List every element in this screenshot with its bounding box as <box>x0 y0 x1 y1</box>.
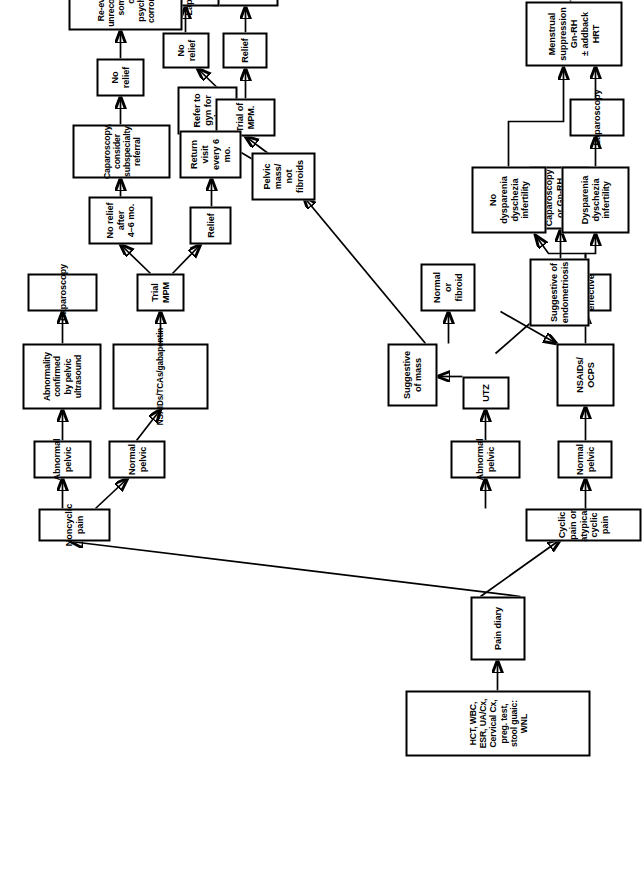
node-caparoscopy-subspecialty-referral: Caparoscopy, consider subspecialty refer… <box>72 124 170 178</box>
node-return-visit-nc: Return visit every 6 mo. <box>179 130 241 178</box>
node-no-relief-after-4-6-mo: No relief after 4–6 mo. <box>88 196 152 244</box>
node-labs: HCT, WBC, ESR, UA/Cx, Cervical Cx, preg.… <box>405 690 590 756</box>
node-trial-mpm-nc: Trial MPM <box>136 273 184 311</box>
node-menstrual-suppression: Menstrual suppression Gn-RH ± addback HR… <box>525 1 622 66</box>
node-return-visit-cyclic: Return visit every 6 mo. <box>212 0 278 6</box>
node-abnormality-confirmed: Abnormality confirmed by pelvic ultrasou… <box>22 343 101 409</box>
node-nc-normal-pelvic: Normal pelvic <box>108 440 165 478</box>
node-nc-abnormal-pelvic: Abnormal pelvic <box>33 440 91 478</box>
node-cyclic-pain: Cyclic pain or atypical cyclic pain <box>525 508 641 541</box>
node-utz: UTZ <box>462 376 509 409</box>
node-relief-nc: Relief <box>189 206 231 244</box>
node-no-dyspareunia-dyschezia-infertility: No dysparenia dyschezia infertility <box>471 166 546 233</box>
node-relief-cyclic: Relief <box>222 32 267 68</box>
node-noncyclic-pain: Noncyclic pain <box>38 508 110 541</box>
node-reeval-somatic-psychiatric: Re-eval for unrecognized somatic or psyc… <box>68 0 182 30</box>
node-cyclic-abnormal-pelvic: Abnormal pelvic <box>450 440 520 478</box>
flowchart-canvas: HCT, WBC, ESR, UA/Cx, Cervical Cx, preg.… <box>0 0 643 896</box>
node-laparoscopy-cyclic: Laparoscopy <box>569 98 624 136</box>
node-suggestive-of-mass: Suggestive of mass <box>387 343 437 406</box>
node-nsaids-ocps: NSAIDs/ OCPS <box>556 343 614 406</box>
node-pain-diary: Pain diary <box>470 596 525 660</box>
node-normal-or-fibroid: Normal or fibroid <box>420 263 475 311</box>
node-suggestive-of-endometriosis: Suggestive of endometriosis <box>529 258 589 326</box>
node-no-relief-cyclic: No relief <box>162 32 209 68</box>
node-no-relief-nc: No relief <box>96 58 144 96</box>
node-caparoscopy-nc: Caparoscopy <box>27 273 97 311</box>
node-cyclic-normal-pelvic: Normal pelvic <box>557 440 612 478</box>
node-nsaids-tcas-gabapentin: NSAIDs/TCAs/gabapentin <box>112 343 208 409</box>
node-dyspareunia-dyschezia-infertility: Dysparenia dyschezia infertility <box>561 166 629 233</box>
flowchart-page: HCT, WBC, ESR, UA/Cx, Cervical Cx, preg.… <box>0 0 643 896</box>
node-pelvic-mass-not-fibroids: Pelvic mass/ not fibroids <box>251 152 315 200</box>
